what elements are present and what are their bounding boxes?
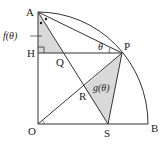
geometry-diagram: A H O B P Q R S θ f(θ) g(θ) [0,0,168,144]
label-O: O [28,125,36,137]
label-f-theta: f(θ) [3,30,18,42]
label-g-theta: g(θ) [93,82,110,94]
angle-dot-1 [40,22,42,24]
label-P: P [124,40,130,52]
label-A: A [26,6,34,18]
label-Q: Q [56,56,64,68]
label-S: S [104,127,110,139]
label-B: B [151,122,158,134]
angle-arc-theta [109,47,110,53]
quarter-circle-arc [38,12,148,124]
label-H: H [27,47,35,59]
label-R: R [79,90,87,102]
angle-mark-O [43,120,44,124]
angle-dot-2 [45,18,47,20]
label-theta: θ [98,41,103,52]
